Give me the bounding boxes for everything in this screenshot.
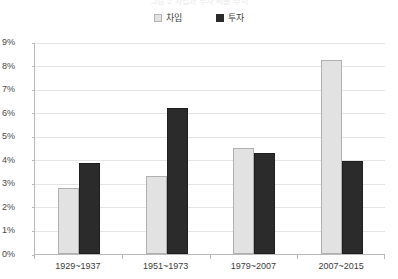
legend-label-borrowing: 차입 (166, 14, 182, 23)
bar-group (35, 43, 123, 254)
bar-chart: 그림 2 차입과 투자 비율 추이 차입 투자 0%1%2%3%4%5%6%7%… (0, 0, 398, 279)
y-axis-tick-label: 8% (0, 62, 15, 71)
bar-borrowing (321, 60, 342, 254)
y-axis-tick-label: 9% (0, 38, 15, 47)
y-axis-tick-label: 7% (0, 85, 15, 94)
x-axis-tick-mark (34, 255, 35, 259)
bar-investment (254, 153, 275, 254)
x-axis-tick-mark (384, 255, 385, 259)
x-axis-label: 1951~1973 (143, 261, 188, 271)
x-axis-label: 1929~1937 (55, 261, 100, 271)
page-title: 그림 2 차입과 투자 비율 추이 (150, 0, 248, 6)
light-square-icon (154, 14, 162, 22)
y-axis-tick-label: 0% (0, 250, 15, 259)
chart-legend: 차입 투자 (0, 11, 398, 25)
bar-borrowing (58, 188, 79, 254)
legend-label-investment: 투자 (228, 14, 244, 23)
x-axis: 1929~19371951~19731979~20072007~2015 (34, 255, 385, 279)
bar-borrowing (233, 148, 254, 254)
x-axis-label: 1979~2007 (231, 261, 276, 271)
y-axis-tick-label: 6% (0, 109, 15, 118)
x-axis-tick-mark (122, 255, 123, 259)
x-axis-label: 2007~2015 (318, 261, 363, 271)
y-axis-tick-label: 5% (0, 132, 15, 141)
chart-title-strip: 그림 2 차입과 투자 비율 추이 (0, 0, 398, 8)
bar-group (123, 43, 211, 254)
y-axis-tick-label: 4% (0, 156, 15, 165)
y-axis-tick-label: 2% (0, 203, 15, 212)
plot-area: 0%1%2%3%4%5%6%7%8%9% (34, 43, 385, 255)
bar-investment (342, 161, 363, 254)
y-axis-tick-label: 1% (0, 226, 15, 235)
bar-group (298, 43, 386, 254)
dark-square-icon (216, 14, 224, 22)
x-axis-tick-mark (297, 255, 298, 259)
bar-investment (79, 163, 100, 254)
bar-investment (167, 108, 188, 254)
legend-item-borrowing: 차입 (154, 14, 182, 23)
y-axis-tick-label: 3% (0, 179, 15, 188)
bar-borrowing (146, 176, 167, 254)
x-axis-tick-mark (210, 255, 211, 259)
bar-group (211, 43, 299, 254)
legend-item-investment: 투자 (216, 14, 244, 23)
bars-layer (35, 43, 385, 254)
